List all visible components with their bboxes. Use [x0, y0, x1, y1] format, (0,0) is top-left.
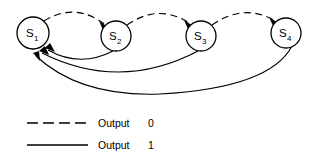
transition-s2-to-s1 — [45, 43, 113, 59]
transition-s4-to-s1-path — [36, 46, 292, 94]
transition-s3-to-s1-path — [42, 51, 198, 72]
legend-entry-output-1: Output 1 — [27, 139, 154, 151]
legend-output-1-label: Output — [98, 139, 130, 151]
transition-s3-to-s4-path — [212, 13, 277, 25]
transition-s4-to-s1-arrowhead — [33, 51, 40, 61]
transition-s2-to-s3-path — [127, 14, 192, 26]
legend-output-1-value: 1 — [148, 139, 154, 151]
state-s3-subscript: 3 — [202, 37, 207, 46]
state-node-s1[interactable]: S 1 — [17, 17, 49, 49]
diagram-canvas: S 1 S 2 S 3 S 4 Output 0 — [0, 0, 315, 163]
state-node-s3[interactable]: S 3 — [186, 21, 216, 51]
legend-entry-output-0: Output 0 — [27, 117, 154, 129]
state-node-s4[interactable]: S 4 — [271, 18, 301, 48]
transition-s1-to-s2-path — [44, 12, 107, 26]
legend-output-0-label: Output — [98, 117, 130, 129]
transition-s3-to-s4 — [212, 13, 278, 26]
state-s4-label: S — [279, 27, 287, 39]
transition-s1-to-s2 — [44, 12, 108, 30]
state-diagram-figure: S 1 S 2 S 3 S 4 Output 0 — [0, 0, 315, 163]
state-node-s2[interactable]: S 2 — [101, 21, 131, 51]
legend: Output 0 Output 1 — [27, 117, 154, 151]
state-s1-label: S — [26, 27, 34, 39]
transition-s2-to-s1-path — [48, 50, 113, 59]
state-s2-label: S — [109, 30, 117, 42]
state-s3-label: S — [194, 30, 202, 42]
transition-s4-to-s1 — [33, 46, 292, 94]
transition-s2-to-s3 — [127, 14, 193, 30]
state-s2-subscript: 2 — [117, 37, 122, 46]
state-s1-subscript: 1 — [34, 34, 39, 43]
legend-output-0-value: 0 — [148, 117, 154, 129]
state-s4-subscript: 4 — [287, 34, 292, 43]
